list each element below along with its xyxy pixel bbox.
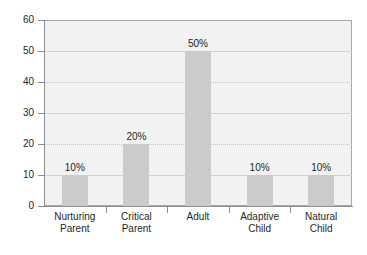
- y-axis-tick-label: 10: [0, 170, 34, 180]
- bar-value-label: 50%: [173, 38, 223, 49]
- x-axis-line: [44, 206, 353, 207]
- x-axis-category-label: NaturalChild: [281, 211, 361, 235]
- bar-value-label: 10%: [296, 162, 346, 173]
- y-axis-line: [44, 20, 45, 207]
- bar[interactable]: [247, 175, 273, 206]
- y-axis-tick-label: 50: [0, 46, 34, 56]
- y-axis-tick-label: 30: [0, 108, 34, 118]
- y-axis-tick: [38, 175, 44, 176]
- bar[interactable]: [123, 144, 149, 206]
- y-axis-tick-label: 40: [0, 77, 34, 87]
- y-axis-tick: [38, 206, 44, 207]
- bar-value-label: 20%: [111, 131, 161, 142]
- y-axis-tick: [38, 20, 44, 21]
- bar-chart: 10%20%50%10%10% NurturingParentCriticalP…: [0, 0, 367, 255]
- bar-value-label: 10%: [50, 162, 100, 173]
- y-axis-tick-label: 0: [0, 201, 34, 211]
- y-axis-tick-label: 20: [0, 139, 34, 149]
- bar[interactable]: [185, 51, 211, 206]
- bar[interactable]: [62, 175, 88, 206]
- y-axis-tick: [38, 51, 44, 52]
- y-axis-tick-label: 60: [0, 15, 34, 25]
- bar-value-label: 10%: [235, 162, 285, 173]
- y-axis-tick: [38, 113, 44, 114]
- y-axis-tick: [38, 144, 44, 145]
- bar[interactable]: [308, 175, 334, 206]
- y-axis-tick: [38, 82, 44, 83]
